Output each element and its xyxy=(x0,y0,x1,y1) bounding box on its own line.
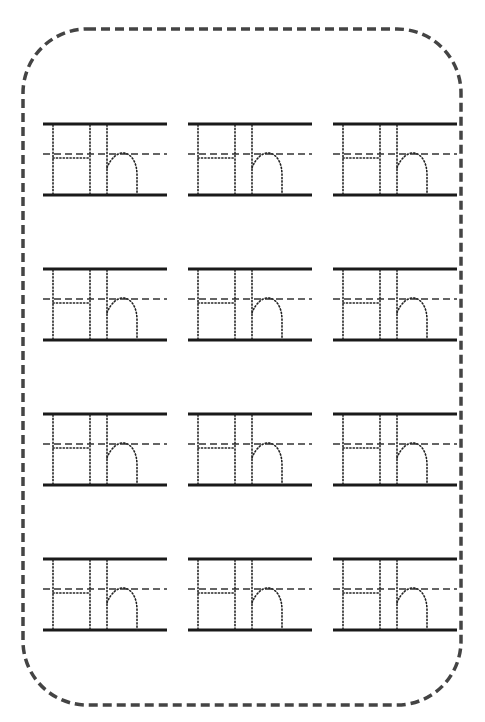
handwriting-lines xyxy=(333,558,457,634)
practice-block-r1-c2 xyxy=(188,123,312,199)
handwriting-lines xyxy=(333,268,457,344)
handwriting-lines xyxy=(333,413,457,489)
lowercase-h-trace xyxy=(107,270,137,340)
lowercase-h-trace xyxy=(107,560,137,630)
lowercase-h-trace xyxy=(107,415,137,485)
lowercase-h-trace xyxy=(397,125,427,195)
uppercase-h-trace xyxy=(343,560,380,630)
lowercase-h-trace xyxy=(397,560,427,630)
practice-block-r4-c3 xyxy=(333,558,457,634)
uppercase-h-trace xyxy=(198,560,235,630)
uppercase-h-trace xyxy=(53,415,90,485)
handwriting-lines xyxy=(43,413,167,489)
uppercase-h-trace xyxy=(343,415,380,485)
lowercase-h-trace xyxy=(397,415,427,485)
lowercase-h-trace xyxy=(252,560,282,630)
practice-block-r1-c1 xyxy=(43,123,167,199)
lowercase-h-trace xyxy=(252,270,282,340)
uppercase-h-trace xyxy=(53,270,90,340)
uppercase-h-trace xyxy=(198,270,235,340)
handwriting-lines xyxy=(188,268,312,344)
practice-block-r2-c1 xyxy=(43,268,167,344)
practice-block-r2-c3 xyxy=(333,268,457,344)
uppercase-h-trace xyxy=(53,125,90,195)
lowercase-h-trace xyxy=(252,125,282,195)
uppercase-h-trace xyxy=(343,270,380,340)
practice-block-r1-c3 xyxy=(333,123,457,199)
handwriting-lines xyxy=(43,558,167,634)
practice-block-r3-c3 xyxy=(333,413,457,489)
lowercase-h-trace xyxy=(107,125,137,195)
handwriting-lines xyxy=(333,123,457,199)
uppercase-h-trace xyxy=(198,125,235,195)
practice-block-r3-c1 xyxy=(43,413,167,489)
handwriting-lines xyxy=(43,123,167,199)
handwriting-lines xyxy=(188,123,312,199)
practice-block-r2-c2 xyxy=(188,268,312,344)
uppercase-h-trace xyxy=(53,560,90,630)
practice-block-r4-c1 xyxy=(43,558,167,634)
handwriting-lines xyxy=(188,558,312,634)
lowercase-h-trace xyxy=(252,415,282,485)
uppercase-h-trace xyxy=(343,125,380,195)
lowercase-h-trace xyxy=(397,270,427,340)
handwriting-lines xyxy=(43,268,167,344)
tracing-worksheet xyxy=(0,0,485,722)
uppercase-h-trace xyxy=(198,415,235,485)
practice-block-r4-c2 xyxy=(188,558,312,634)
practice-block-r3-c2 xyxy=(188,413,312,489)
handwriting-lines xyxy=(188,413,312,489)
